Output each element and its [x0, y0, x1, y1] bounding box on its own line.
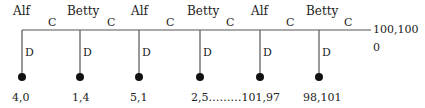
terminal-node-4 — [196, 73, 204, 81]
final-payoff-label: 100,100 — [373, 24, 419, 36]
continue-label-1: C — [48, 17, 56, 29]
payoff-label-6: 98,101 — [303, 92, 342, 104]
player-label-4: Betty — [187, 5, 219, 17]
terminal-node-5 — [256, 73, 264, 81]
continue-label-2: C — [107, 17, 115, 29]
terminal-node-2 — [76, 73, 84, 81]
player-label-2: Betty — [67, 5, 99, 17]
payoff-label-3: 5,1 — [130, 92, 148, 104]
terminal-node-1 — [18, 73, 26, 81]
defect-label-2: D — [83, 47, 92, 59]
defect-label-3: D — [142, 47, 151, 59]
continue-label-4: C — [226, 17, 234, 29]
payoff-label-1: 4,0 — [12, 92, 30, 104]
player-label-3: Alf — [131, 5, 148, 17]
continue-label-3: C — [166, 17, 174, 29]
final-extra-label: 0 — [373, 42, 380, 54]
player-label-6: Betty — [306, 5, 338, 17]
defect-label-6: D — [322, 47, 331, 59]
player-label-1: Alf — [13, 5, 30, 17]
payoff-label-4: 2,5………101,97 — [191, 92, 280, 104]
terminal-node-6 — [315, 73, 323, 81]
defect-label-1: D — [25, 47, 34, 59]
player-label-5: Alf — [251, 5, 268, 17]
defect-label-4: D — [203, 47, 212, 59]
defect-label-5: D — [263, 47, 272, 59]
payoff-label-2: 1,4 — [72, 92, 90, 104]
terminal-node-3 — [135, 73, 143, 81]
continue-label-5: C — [286, 17, 294, 29]
continue-label-6: C — [344, 17, 352, 29]
